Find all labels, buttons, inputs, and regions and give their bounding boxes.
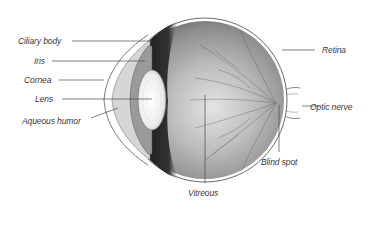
label-aqueous-humor: Aqueous humor [22,116,81,126]
label-lens: Lens [35,94,53,104]
lens-shape [138,70,166,130]
label-ciliary-body: Ciliary body [18,36,61,46]
label-cornea: Cornea [24,75,51,85]
label-optic-nerve: Optic nerve [310,102,352,112]
label-iris: Iris [34,56,45,66]
label-blind-spot: Blind spot [261,157,297,167]
label-retina: Retina [322,45,346,55]
label-vitreous: Vitreous [188,188,218,198]
